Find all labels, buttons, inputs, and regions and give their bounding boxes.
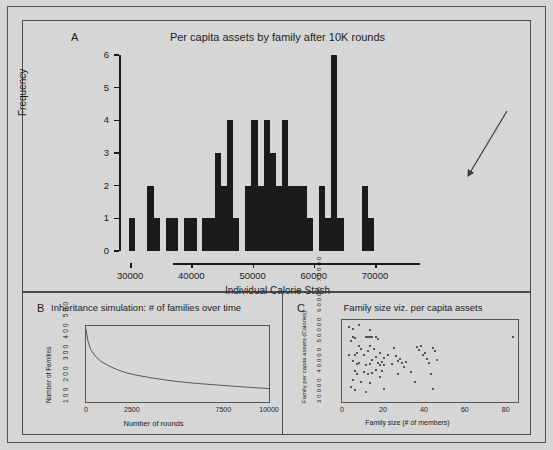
y-tick-mark xyxy=(114,185,119,187)
panel-b-line-series xyxy=(86,326,269,402)
scatter-point xyxy=(393,347,395,349)
scatter-point xyxy=(397,373,399,375)
scatter-point xyxy=(391,363,393,365)
panel-b-y-tick-labels: 100 200 300 400 500 xyxy=(62,300,69,403)
scatter-point xyxy=(371,336,373,338)
x-tick-label: 7500 xyxy=(216,406,232,413)
scatter-point xyxy=(352,379,354,381)
scatter-point xyxy=(369,329,371,331)
x-tick-label: 20 xyxy=(379,406,387,413)
figure-canvas: A Per capita assets by family after 10K … xyxy=(0,0,553,450)
y-tick-label: 3 xyxy=(95,147,109,158)
scatter-point xyxy=(371,359,373,361)
scatter-point xyxy=(352,328,354,330)
scatter-point xyxy=(350,386,352,388)
x-tick-label: 80 xyxy=(502,406,510,413)
scatter-point xyxy=(383,357,385,359)
y-tick-label: 1 xyxy=(95,212,109,223)
panel-b-x-axis-label: Number of rounds xyxy=(23,419,284,428)
panel-a-y-axis-label: Frequency xyxy=(17,69,28,116)
scatter-point xyxy=(354,337,356,339)
x-tick-mark xyxy=(253,263,255,268)
x-tick-label: 10000 xyxy=(259,406,278,413)
scatter-point xyxy=(354,370,356,372)
scatter-point xyxy=(363,354,365,356)
scatter-point xyxy=(379,352,381,354)
panel-a-histogram-bars xyxy=(124,55,424,251)
y-tick-mark xyxy=(114,152,119,154)
panel-c-title: Family size viz. per capita assets xyxy=(313,302,513,313)
panel-b-letter: B xyxy=(37,302,44,314)
panel-a-y-axis-line xyxy=(119,55,121,251)
scatter-point xyxy=(348,326,350,328)
scatter-point xyxy=(379,364,381,366)
scatter-point xyxy=(426,358,428,360)
panel-bottom-row: B Inheritance simulation: # of families … xyxy=(22,292,531,435)
scatter-point xyxy=(356,373,358,375)
scatter-point xyxy=(410,371,412,373)
scatter-point xyxy=(369,363,371,365)
panel-c-plot-frame xyxy=(341,319,519,403)
scatter-point xyxy=(365,391,367,393)
x-tick-label: 2500 xyxy=(124,406,140,413)
panel-a-title: Per capita assets by family after 10K ro… xyxy=(23,31,532,43)
scatter-point xyxy=(418,349,420,351)
x-tick-mark xyxy=(191,263,193,268)
scatter-point xyxy=(358,324,360,326)
scatter-point xyxy=(371,372,373,374)
scatter-point xyxy=(434,350,436,352)
x-tick-mark xyxy=(130,263,132,268)
panel-b-title: Inheritance simulation: # of families ov… xyxy=(51,302,271,313)
panel-b-y-axis-label: Number of Families xyxy=(45,347,52,403)
scatter-point xyxy=(354,389,356,391)
panel-c: C Family size viz. per capita assets Fam… xyxy=(282,292,531,435)
x-tick-label: 60 xyxy=(461,406,469,413)
scatter-point xyxy=(369,382,371,384)
scatter-point xyxy=(432,388,434,390)
scatter-point xyxy=(428,362,430,364)
scatter-point xyxy=(348,354,350,356)
x-tick-label: 0 xyxy=(340,406,344,413)
scatter-point xyxy=(399,358,401,360)
scatter-point xyxy=(422,354,424,356)
x-tick-label: 40000 xyxy=(178,270,204,281)
y-tick-label: 0 xyxy=(95,245,109,256)
scatter-point xyxy=(432,347,434,349)
x-tick-label: 40 xyxy=(420,406,428,413)
scatter-point xyxy=(381,361,383,363)
scatter-point xyxy=(365,364,367,366)
scatter-point xyxy=(405,361,407,363)
scatter-point xyxy=(512,336,514,338)
scatter-point xyxy=(397,360,399,362)
y-tick-label: 4 xyxy=(95,114,109,125)
panel-b: B Inheritance simulation: # of families … xyxy=(22,292,283,435)
x-tick-label: 50000 xyxy=(239,270,265,281)
x-tick-label: 0 xyxy=(84,406,88,413)
scatter-point xyxy=(420,345,422,347)
scatter-point xyxy=(401,362,403,364)
scatter-point xyxy=(387,354,389,356)
x-tick-label: 30000 xyxy=(117,270,143,281)
scatter-point xyxy=(369,345,371,347)
histogram-bar xyxy=(337,218,344,251)
y-tick-label: 2 xyxy=(95,180,109,191)
x-tick-mark xyxy=(375,263,377,268)
scatter-point xyxy=(367,373,369,375)
scatter-point xyxy=(383,364,385,366)
scatter-point xyxy=(358,362,360,364)
y-tick-mark xyxy=(114,87,119,89)
scatter-point xyxy=(354,354,356,356)
scatter-point xyxy=(395,355,397,357)
panel-c-y-axis-label: Family per capita assets (Calories) xyxy=(301,311,307,403)
histogram-bar xyxy=(129,218,136,251)
histogram-bar xyxy=(306,218,313,251)
decay-curve xyxy=(86,329,269,389)
scatter-point xyxy=(350,340,352,342)
y-tick-mark xyxy=(114,250,119,252)
panel-c-x-axis-label: Family size (# of members) xyxy=(283,419,532,426)
scatter-point xyxy=(383,388,385,390)
x-tick-label: 70000 xyxy=(362,270,388,281)
histogram-bar xyxy=(368,218,375,251)
annotation-arrow-icon xyxy=(448,101,518,191)
scatter-point xyxy=(375,356,377,358)
